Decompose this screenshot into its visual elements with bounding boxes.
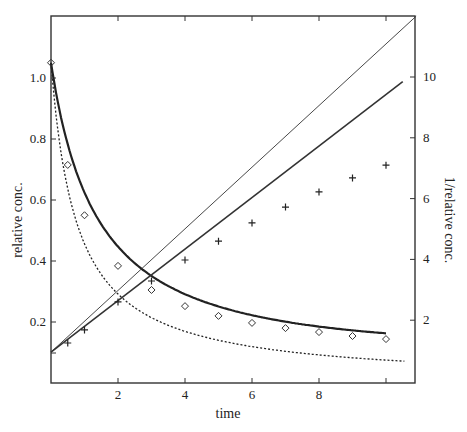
- plus-marker: [316, 188, 323, 195]
- diamond-marker: [316, 329, 323, 336]
- y2-tick-label: 4: [423, 251, 430, 266]
- x-tick-label: 8: [316, 387, 323, 402]
- plus-marker: [215, 238, 222, 245]
- data-series: [48, 16, 417, 361]
- plus-marker: [249, 219, 256, 226]
- plot-border: [51, 16, 415, 383]
- plus-marker: [282, 204, 289, 211]
- y-tick-label: 0.6: [30, 192, 47, 207]
- diamond-marker: [148, 286, 155, 293]
- x-axis-label: time: [216, 406, 241, 421]
- linear-line-thick: [51, 82, 403, 353]
- x-tick-label: 4: [182, 387, 189, 402]
- diamond-marker: [349, 333, 356, 340]
- diamond-marker: [64, 161, 71, 168]
- y2-tick-label: 10: [423, 69, 436, 84]
- y2-tick-label: 2: [423, 312, 430, 327]
- diamond-marker: [282, 325, 289, 332]
- y-tick-label: 1.0: [30, 70, 46, 85]
- chart: 24680.20.40.60.81.0246810 time relative …: [0, 0, 467, 432]
- plus-marker: [383, 162, 390, 169]
- x-tick-label: 2: [115, 387, 122, 402]
- y-axis-label: relative conc.: [10, 182, 25, 257]
- linear-line-thin: [51, 16, 416, 352]
- y2-tick-label: 6: [423, 191, 430, 206]
- plus-marker: [349, 174, 356, 181]
- plot-frame: [51, 16, 415, 383]
- diamond-marker: [215, 312, 222, 319]
- x-tick-label: 6: [249, 387, 256, 402]
- diamond-marker: [182, 303, 189, 310]
- y-tick-label: 0.2: [30, 314, 46, 329]
- diamond-marker: [115, 262, 122, 269]
- y-tick-label: 0.4: [30, 253, 47, 268]
- diamond-marker: [249, 319, 256, 326]
- y2-tick-label: 8: [423, 130, 430, 145]
- diamond-marker: [81, 212, 88, 219]
- model-curve-dotted: [51, 63, 404, 361]
- y2-axis-label: 1/relative conc.: [442, 177, 457, 263]
- diamond-marker: [383, 336, 390, 343]
- axis-ticks: 24680.20.40.60.81.0246810: [30, 16, 436, 402]
- y-tick-label: 0.8: [30, 131, 46, 146]
- plus-marker: [182, 257, 189, 264]
